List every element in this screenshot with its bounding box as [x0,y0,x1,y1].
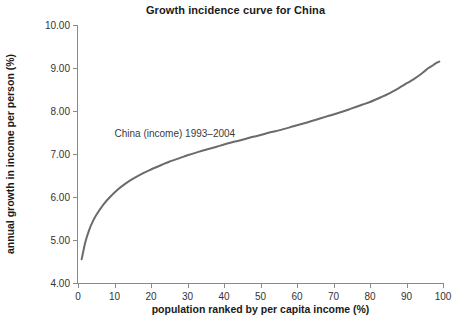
chart-figure: Growth incidence curve for China annual … [0,0,471,327]
y-tick-label: 5.00 [51,235,70,246]
x-tick-mark [115,283,116,288]
x-tick-mark [297,283,298,288]
x-tick-mark [370,283,371,288]
x-tick-label: 100 [435,291,452,302]
y-tick-label: 7.00 [51,149,70,160]
x-tick-label: 10 [109,291,120,302]
y-tick-label: 10.00 [45,20,70,31]
y-tick-label: 8.00 [51,106,70,117]
growth-incidence-curve [78,25,443,283]
series-line-china-income [82,62,440,260]
x-tick-label: 50 [255,291,266,302]
y-tick-label: 6.00 [51,192,70,203]
chart-title: Growth incidence curve for China [0,4,471,16]
x-tick-mark [78,283,79,288]
x-tick-label: 0 [75,291,81,302]
x-tick-label: 30 [182,291,193,302]
x-tick-mark [407,283,408,288]
x-tick-mark [443,283,444,288]
x-tick-mark [151,283,152,288]
x-tick-mark [334,283,335,288]
x-tick-mark [188,283,189,288]
x-tick-label: 60 [291,291,302,302]
x-tick-label: 90 [401,291,412,302]
x-tick-label: 40 [218,291,229,302]
y-tick-label: 4.00 [51,278,70,289]
x-tick-mark [261,283,262,288]
y-axis-label: annual growth in income per person (%) [2,25,18,283]
x-tick-label: 80 [364,291,375,302]
x-tick-label: 20 [145,291,156,302]
x-tick-label: 70 [328,291,339,302]
x-tick-mark [224,283,225,288]
plot-area: 4.005.006.007.008.009.0010.00 0102030405… [78,25,443,283]
x-axis-label: population ranked by per capita income (… [78,303,443,315]
y-tick-label: 9.00 [51,63,70,74]
series-annotation: China (income) 1993–2004 [115,128,236,139]
